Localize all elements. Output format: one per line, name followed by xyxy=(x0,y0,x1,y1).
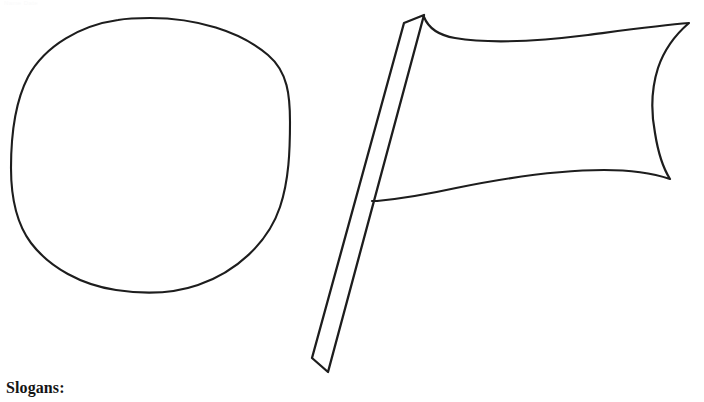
circle-outline-figure xyxy=(11,18,290,293)
flag-banner-path xyxy=(377,17,689,201)
worksheet-page: Name Date Slogans: xyxy=(0,0,704,402)
figures-drawing-area xyxy=(0,0,704,402)
flag-outline-figure xyxy=(312,15,689,372)
line-art-svg xyxy=(0,0,704,402)
flagpole-path xyxy=(312,15,424,372)
circle-outline-path xyxy=(11,18,290,293)
slogans-caption-label: Slogans: xyxy=(6,378,65,397)
